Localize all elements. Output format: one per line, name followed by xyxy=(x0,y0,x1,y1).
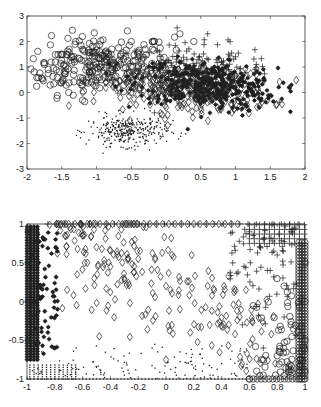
x-tick-label: -0.6 xyxy=(75,382,91,392)
y-tick-label: -2 xyxy=(16,139,24,149)
y-tick-label: 0 xyxy=(19,297,24,307)
x-tick-label: -0.2 xyxy=(130,382,146,392)
x-tick-label: -0.8 xyxy=(47,382,63,392)
y-tick-label: 2 xyxy=(19,37,24,47)
axes: -1-0.8-0.6-0.4-0.200.20.40.60.81-1-0.500… xyxy=(8,219,307,392)
x-tick-label: -2 xyxy=(23,172,31,182)
x-tick-label: 0.4 xyxy=(215,382,228,392)
x-tick-label: 0.6 xyxy=(243,382,256,392)
x-tick-label: -1 xyxy=(92,172,100,182)
x-tick-label: 0.5 xyxy=(194,172,207,182)
y-tick-label: -3 xyxy=(16,164,24,174)
x-tick-label: 1 xyxy=(302,382,307,392)
x-tick-label: 0.2 xyxy=(188,382,201,392)
scatter-plot-bottom: -1-0.8-0.6-0.4-0.200.20.40.60.81-1-0.500… xyxy=(0,195,321,407)
scatter-plot-top: -2-1.5-1-0.500.511.52-3-2-10123 xyxy=(0,0,321,195)
x-tick-label: 0 xyxy=(163,172,168,182)
y-tick-label: 0 xyxy=(19,88,24,98)
x-tick-label: -0.4 xyxy=(103,382,119,392)
series-plus xyxy=(45,221,308,351)
x-tick-label: 2 xyxy=(302,172,307,182)
y-tick-label: 3 xyxy=(19,11,24,21)
y-tick-label: 0.5 xyxy=(11,258,24,268)
y-tick-label: 1 xyxy=(19,62,24,72)
y-tick-label: -1 xyxy=(16,374,24,384)
series-dots xyxy=(76,108,186,154)
y-tick-label: 1 xyxy=(19,219,24,229)
x-tick-label: 1.5 xyxy=(264,172,277,182)
series-asterisks xyxy=(25,224,61,362)
x-tick-label: -0.5 xyxy=(123,172,139,182)
x-tick-label: 0 xyxy=(163,382,168,392)
x-tick-label: -1.5 xyxy=(54,172,70,182)
y-tick-label: -0.5 xyxy=(8,335,24,345)
series-dots xyxy=(26,330,249,380)
x-tick-label: 1 xyxy=(233,172,238,182)
x-tick-label: 0.8 xyxy=(271,382,284,392)
y-tick-label: -1 xyxy=(16,113,24,123)
x-tick-label: -1 xyxy=(23,382,31,392)
